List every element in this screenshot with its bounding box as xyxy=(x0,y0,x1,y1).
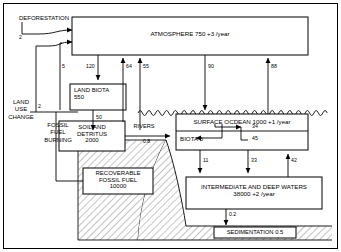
surface-ocean-box xyxy=(176,114,308,150)
flux-land-use-change: 2 xyxy=(38,104,41,109)
flux-biota-export: 11 xyxy=(203,158,208,163)
flux-upwelling: 42 xyxy=(291,158,297,163)
carbon-cycle-diagram: ATMOSPHERE 750 +3 /year LAND BIOTA 550 S… xyxy=(0,0,341,252)
deforestation-arrow xyxy=(38,30,72,34)
atmosphere-box xyxy=(72,17,308,55)
rivers-label: RIVERS xyxy=(126,123,162,130)
flux-land-biota-to-soil: 50 xyxy=(96,115,102,120)
deep-waters-box xyxy=(186,177,322,209)
flux-surface-to-biota: 34 xyxy=(252,124,258,129)
flux-ocean-to-atmosphere: 88 xyxy=(271,64,277,69)
recoverable-fossil-fuel-box xyxy=(83,168,153,194)
land-biota-box xyxy=(70,84,126,110)
land-use-change-label: LAND USE CHANGE xyxy=(2,99,40,121)
fossil-fuel-burning-label: FOSSIL FUEL BURNING xyxy=(38,122,78,144)
flux-soil-to-atmosphere: 64 xyxy=(126,64,132,69)
deforestation-label: DEFORESTATION xyxy=(8,15,80,22)
flux-downwelling: 33 xyxy=(251,158,257,163)
flux-deforestation: 2 xyxy=(19,35,22,40)
flux-biota-to-atmosphere: 55 xyxy=(143,64,149,69)
flux-atmosphere-to-land-biota: 120 xyxy=(86,64,95,69)
flux-land-biota-respiration: 5 xyxy=(62,64,65,69)
flux-rivers: 0.8 xyxy=(143,139,150,144)
flux-atmosphere-to-ocean: 90 xyxy=(208,64,214,69)
sedimentation-box xyxy=(214,227,296,238)
flux-biota-to-surface: 45 xyxy=(252,136,258,141)
flux-deep-to-sediment: 0.2 xyxy=(229,212,236,217)
